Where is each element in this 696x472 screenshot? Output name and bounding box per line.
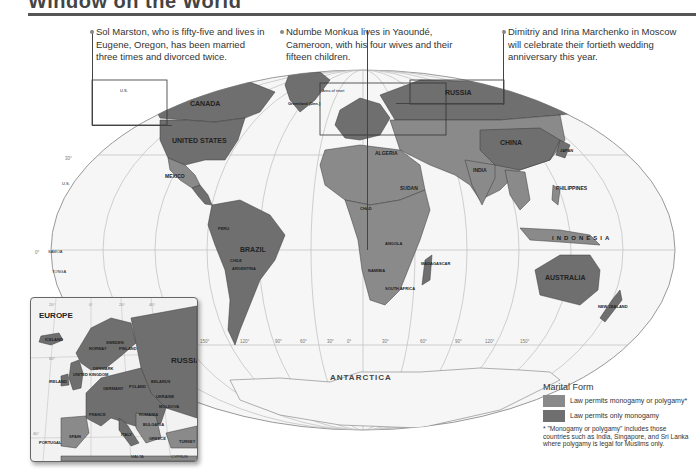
svg-text:RUSSIA: RUSSIA [171,356,197,365]
label-indonesia: INDONESIA [552,235,612,241]
legend-footnote: * "Monogamy or polygamy" includes those … [543,425,693,448]
label-usa: UNITED STATES [172,137,227,144]
label-antarctica: ANTARCTICA [330,373,392,382]
label-sudan: SUDAN [400,185,418,191]
svg-text:40°: 40° [33,431,39,436]
leader-line-3-horiz [396,103,504,104]
svg-text:30°: 30° [65,156,72,161]
svg-text:SWEDEN: SWEDEN [106,340,124,345]
svg-text:UNITED KINGDOM: UNITED KINGDOM [73,372,109,377]
svg-text:FINLAND: FINLAND [119,346,137,351]
label-algeria: ALGERIA [375,150,398,156]
svg-text:SPAIN: SPAIN [69,434,81,439]
label-philippines: PHILIPPINES [556,185,588,191]
leader-line-1 [92,30,93,125]
label-tonga: TONGA [52,269,66,274]
svg-text:0°: 0° [35,250,40,255]
inset-title: EUROPE [39,311,73,320]
legend-title: Marital Form [543,382,693,392]
svg-text:FRANCE: FRANCE [89,412,106,417]
svg-text:TURKEY: TURKEY [179,439,196,444]
label-argentina: ARGENTINA [232,266,256,271]
svg-text:IRELAND: IRELAND [49,379,67,384]
bullet-icon [90,30,94,34]
svg-text:ITALY: ITALY [121,432,132,437]
svg-text:40°: 40° [149,302,155,307]
svg-text:60°: 60° [300,339,307,344]
label-madagascar: MADAGASCAR [421,261,450,266]
label-us-hawaii: U.S. [62,181,70,186]
svg-text:GREECE: GREECE [149,436,166,441]
label-namibia: NAMIBIA [368,268,385,273]
svg-text:ICELAND: ICELAND [45,337,63,342]
svg-text:30°: 30° [382,339,389,344]
label-new-zealand: NEW ZEALAND [598,304,628,309]
svg-text:90°: 90° [275,339,282,344]
leader-line-1-horiz [92,125,172,126]
svg-text:90°: 90° [455,339,462,344]
svg-text:UKRAINE: UKRAINE [156,394,175,399]
label-chad: CHAD [360,206,372,211]
iberia-shape [61,416,89,448]
swatch-polygamy [543,395,565,407]
svg-text:60°: 60° [49,356,55,361]
label-us-alaska: U.S. [120,88,128,93]
label-angola: ANGOLA [385,241,402,246]
swatch-monogamy [543,410,565,422]
svg-text:60°: 60° [420,339,427,344]
label-peru: PERU [218,226,229,231]
svg-text:20°: 20° [49,302,55,307]
legend: Marital Form Law permits monogamy or pol… [543,382,693,448]
callout-marston: Sol Marston, who is fifty-five and lives… [96,26,266,64]
label-china: CHINA [500,139,522,146]
bullet-icon [502,30,506,34]
svg-text:0°: 0° [89,302,93,307]
russia-shape [380,80,600,120]
svg-text:GERMANY: GERMANY [103,386,124,391]
legend-item-monogamy: Law permits only monogamy [543,410,693,422]
svg-text:CYPRUS: CYPRUS [171,454,188,459]
label-russia: RUSSIA [445,89,471,96]
svg-text:150°: 150° [200,339,210,344]
label-japan: JAPAN [560,148,573,153]
svg-text:BELARUS: BELARUS [151,379,171,384]
leader-line-3 [503,30,504,105]
svg-text:DENMARK: DENMARK [93,366,114,371]
label-greenland: Greenland (Den.) [288,101,321,106]
svg-text:BULGARIA: BULGARIA [143,422,164,427]
callout-marchenko: Dimitriy and Irina Marchenko in Moscow w… [508,26,688,64]
label-area-of-inset: Area of inset [322,88,345,93]
label-samoa: SAMOA [48,249,63,254]
label-south-africa: SOUTH AFRICA [385,286,415,291]
svg-text:150°: 150° [520,339,530,344]
label-australia: AUSTRALIA [545,274,585,281]
label-chile: CHILE [230,258,242,263]
svg-text:20°: 20° [119,302,125,307]
svg-text:30°: 30° [327,339,334,344]
svg-text:MALTA: MALTA [131,454,144,459]
svg-text:MOLDOVA: MOLDOVA [159,404,179,409]
svg-text:ROMANIA: ROMANIA [139,412,158,417]
alaska-shape [90,96,150,118]
callout-monkua: Ndumbe Monkua lives in Yaoundé, Cameroon… [286,26,476,64]
svg-text:NORWAY: NORWAY [89,346,107,351]
label-mexico: MEXICO [165,173,185,179]
svg-text:PORTUGAL: PORTUGAL [39,440,62,445]
europe-inset-map: EUROPE ICELAND NORWAY SWEDEN FINLAND RUS… [30,297,198,462]
label-canada: CANADA [190,100,220,107]
svg-text:120°: 120° [240,339,250,344]
turkey-shape [166,426,197,448]
bullet-icon [280,30,284,34]
svg-text:POLAND: POLAND [129,384,146,389]
svg-text:0°: 0° [347,339,352,344]
label-brazil: BRAZIL [240,246,266,253]
label-india: INDIA [473,167,487,173]
legend-item-polygamy: Law permits monogamy or polygamy* [543,395,693,407]
svg-text:120°: 120° [485,339,495,344]
